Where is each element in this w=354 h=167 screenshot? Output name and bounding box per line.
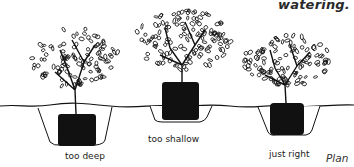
leaf <box>79 56 82 60</box>
leaf <box>201 36 204 41</box>
leaf <box>298 75 302 79</box>
root-ball <box>162 82 199 120</box>
leaf <box>173 47 179 51</box>
leaf <box>30 56 35 60</box>
leaf <box>43 58 47 62</box>
leaf <box>92 34 98 38</box>
leaf <box>215 55 220 60</box>
leaf <box>179 22 185 26</box>
leaf <box>158 49 164 54</box>
leaf <box>79 36 85 41</box>
leaf <box>284 53 288 57</box>
trunk <box>160 22 205 82</box>
leaf <box>43 74 47 78</box>
leaf <box>108 65 113 69</box>
leaf <box>300 45 304 49</box>
leaf <box>58 44 63 48</box>
leaf <box>191 28 195 32</box>
leaf <box>209 31 213 35</box>
leaf <box>203 25 208 30</box>
leaf <box>44 52 49 57</box>
leaf <box>89 56 94 61</box>
leaf <box>195 31 200 37</box>
leaf <box>207 58 212 62</box>
leaf <box>293 56 298 60</box>
leaf <box>158 29 162 34</box>
leaf <box>184 67 189 72</box>
leaf <box>178 44 184 50</box>
leaf <box>161 20 165 26</box>
leaf <box>196 20 202 26</box>
leaf <box>159 13 164 17</box>
leaf <box>33 63 37 67</box>
leaf <box>302 38 306 44</box>
leaf <box>61 27 66 33</box>
leaf <box>72 76 77 79</box>
leaf <box>313 75 318 78</box>
leaf <box>187 33 192 39</box>
leaf <box>145 52 150 57</box>
leaf <box>60 83 64 88</box>
leaf <box>37 41 44 48</box>
foliage <box>242 33 330 88</box>
leaf <box>86 47 89 51</box>
leaf <box>202 40 207 43</box>
leaf <box>144 33 148 37</box>
leaf <box>109 54 114 59</box>
leaf <box>204 48 211 54</box>
caption-line: Plan <box>326 151 349 165</box>
leaf <box>262 76 268 80</box>
leaf <box>203 62 209 68</box>
label-too-shallow: too shallow <box>148 134 199 144</box>
leaf <box>225 44 230 49</box>
foliage <box>30 27 121 89</box>
leaf <box>189 21 196 27</box>
label-too-deep: too deep <box>65 151 105 161</box>
leaf <box>220 52 226 58</box>
leaf <box>154 15 159 18</box>
leaf <box>153 22 159 29</box>
shrub-just-right <box>242 33 330 136</box>
leaf <box>84 27 88 31</box>
leaf <box>40 57 43 61</box>
leaf <box>291 33 296 39</box>
leaf <box>171 12 176 16</box>
root-ball <box>58 114 96 146</box>
caption-fragment: Plan shru with <box>326 123 349 167</box>
leaf <box>197 54 202 59</box>
leaf <box>257 73 262 78</box>
leaf <box>253 63 258 68</box>
leaf <box>281 39 284 44</box>
leaf <box>89 77 94 82</box>
leaf <box>83 77 87 79</box>
leaf <box>244 51 249 56</box>
leaf <box>317 42 323 47</box>
leaf <box>273 49 278 53</box>
leaf <box>298 65 302 70</box>
foliage <box>134 8 233 72</box>
leaf <box>60 78 64 82</box>
leaf <box>52 64 55 70</box>
leaf <box>76 61 83 67</box>
leaf <box>163 43 167 47</box>
leaf <box>144 57 149 61</box>
leaf <box>284 33 289 38</box>
leaf <box>41 48 46 52</box>
root-ball <box>270 103 304 135</box>
leaf <box>250 73 254 77</box>
leaf <box>304 75 308 79</box>
leaf <box>71 33 76 38</box>
leaf <box>304 47 309 53</box>
leaf <box>82 31 87 36</box>
leaf <box>76 32 79 36</box>
leaf <box>286 66 290 71</box>
leaf <box>218 42 223 46</box>
leaf <box>275 37 281 42</box>
leaf <box>221 32 226 38</box>
label-just-right: just right <box>269 149 309 159</box>
leaf <box>262 60 265 65</box>
leaf <box>56 66 61 70</box>
shrub-too-deep <box>30 27 121 146</box>
leaf <box>242 57 247 63</box>
leaf <box>168 50 173 56</box>
